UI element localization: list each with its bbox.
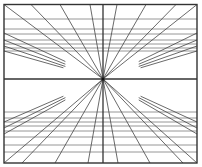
radial-line-partial — [141, 51, 197, 68]
perspective-drawing — [0, 0, 202, 167]
radial-line-partial — [4, 46, 65, 66]
radial-line — [103, 5, 117, 80]
perspective-diagram — [0, 0, 202, 167]
radial-line — [103, 5, 197, 80]
radial-line-partial — [139, 33, 197, 62]
radial-line-partial — [4, 33, 65, 62]
radial-line-partial — [139, 46, 197, 66]
vanishing-point — [101, 77, 104, 80]
radial-line-partial — [4, 51, 63, 68]
horizontal-lines — [4, 19, 197, 152]
radial-line-partial — [139, 100, 197, 134]
radial-line — [4, 5, 103, 80]
radial-line-partial — [4, 100, 65, 134]
radial-line-partial — [139, 98, 197, 128]
radial-line-partial — [4, 98, 65, 128]
radial-lines — [4, 5, 197, 164]
